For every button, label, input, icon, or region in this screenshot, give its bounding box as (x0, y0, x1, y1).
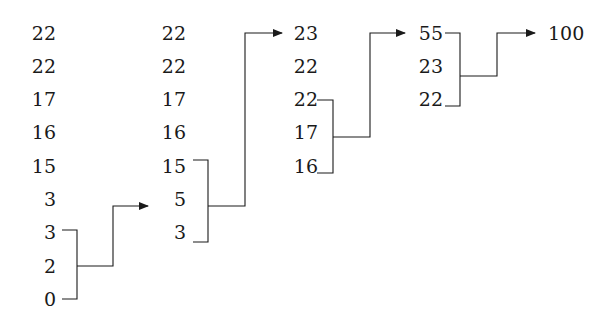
arrow-merge-3 (333, 33, 405, 137)
arrow-merge-1 (77, 206, 148, 266)
bracket-merge-3 (317, 100, 333, 173)
bracket-merge-4 (445, 33, 460, 106)
arrow-merge-2 (208, 33, 282, 206)
bracket-merge-1 (62, 230, 77, 299)
bracket-merge-2 (193, 160, 208, 242)
arrow-merge-4 (460, 33, 535, 76)
merge-connectors (0, 0, 600, 323)
